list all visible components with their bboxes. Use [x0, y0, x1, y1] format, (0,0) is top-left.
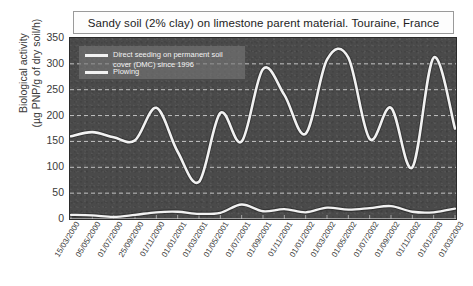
y-tick-200: 200: [6, 109, 64, 121]
chart-figure: Sandy soil (2% clay) on limestone parent…: [0, 0, 473, 286]
plot-area: Direct seeding on permanent soil cover (…: [69, 37, 457, 220]
y-tick-0: 0: [6, 212, 64, 224]
legend-swatch-plowing: [85, 71, 108, 74]
x-axis-ticks: 15/03/200005/05/200001/07/200025/09/2000…: [69, 220, 455, 282]
y-axis-ticks: 050100150200250300350: [0, 37, 64, 218]
legend-item-plowing: Plowing: [85, 67, 139, 77]
chart-title-box: Sandy soil (2% clay) on limestone parent…: [73, 11, 454, 34]
y-tick-100: 100: [6, 160, 64, 172]
y-tick-150: 150: [6, 134, 64, 146]
y-tick-50: 50: [6, 186, 64, 198]
page-title: Sandy soil (2% clay) on limestone parent…: [88, 17, 440, 29]
legend-swatch-dmc: [85, 54, 108, 57]
legend: Direct seeding on permanent soil cover (…: [79, 46, 245, 79]
y-tick-350: 350: [6, 31, 64, 43]
legend-label-plowing: Plowing: [113, 67, 139, 77]
y-tick-250: 250: [6, 83, 64, 95]
y-tick-300: 300: [6, 57, 64, 69]
